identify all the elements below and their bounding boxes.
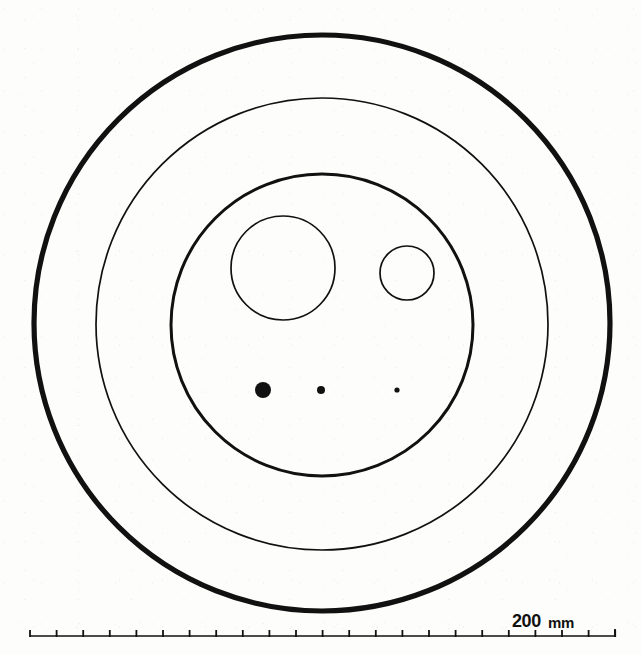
scale-bar-unit-label: mm — [548, 615, 574, 630]
large-inner-circle — [231, 216, 335, 320]
filled-dot-medium — [317, 386, 325, 394]
inner-boundary-circle — [171, 174, 473, 476]
scale-bar-value-label: 200 — [512, 612, 541, 630]
middle-ring-circle — [96, 98, 548, 550]
shape-layer — [34, 35, 610, 611]
filled-dot-small — [394, 387, 399, 392]
small-inner-circle — [380, 246, 434, 300]
line-drawing-svg — [0, 0, 642, 655]
filled-dot-large — [255, 382, 271, 398]
figure-canvas: 200 mm — [0, 0, 642, 655]
outer-boundary-circle — [34, 35, 610, 611]
